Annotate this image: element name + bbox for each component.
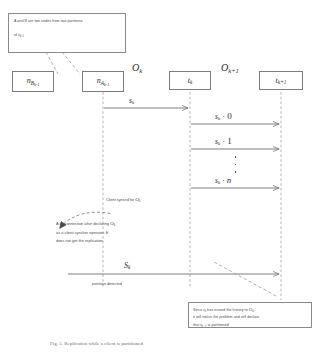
lifeline-tk1-label: tk+1	[276, 76, 287, 85]
note-disconnection-line1: A disconnection after declaring Ok	[56, 219, 164, 229]
note-erased-history: Since tk has erased the history to Ok, i…	[188, 302, 312, 328]
note-disconnection-line2: as a client syncher operator. E	[56, 229, 164, 237]
note-partitions: A and B are two nodes from two partition…	[8, 13, 126, 53]
lifeline-tk-label: tk	[188, 76, 193, 85]
lifeline-node-a[interactable]: nAk-1	[82, 71, 124, 92]
message-label-sk-to-tk: sk	[129, 96, 134, 105]
note-disconnection-line3: does not get the replication	[56, 237, 164, 245]
message-label-sk-n: sk· n	[215, 175, 231, 185]
lifeline-node-a-label: nAk-1	[97, 76, 110, 86]
note-erased-line2: it will notice the problem and will decl…	[193, 314, 307, 321]
figure-caption: Fig. 5. Replication while a client is pa…	[50, 341, 143, 346]
note-partitions-line2: of tk-1	[14, 30, 120, 40]
note-erased-line1: Since tk has erased the history to Ok,	[193, 306, 307, 314]
note-partitions-line1: A and B are two nodes from two partition…	[14, 18, 120, 25]
figure-canvas: A and B are two nodes from two partition…	[0, 0, 322, 353]
message-label-sk-0: sk· 0	[215, 111, 232, 121]
connector-bottom-note	[214, 262, 276, 296]
lifeline-node-b-label: nBk-1	[27, 76, 40, 86]
lifeline-tk1[interactable]: tk+1	[259, 71, 303, 90]
message-label-Sk: Sk	[124, 261, 130, 270]
vertical-ellipsis	[234, 156, 237, 173]
note-partitions-line2-prefix: of	[14, 33, 17, 37]
label-partition-detected: partition detected	[92, 281, 122, 286]
operator-ok: Ok	[132, 62, 142, 74]
note-connector-right	[62, 52, 80, 74]
lifeline-tk[interactable]: tk	[169, 71, 211, 90]
note-partitions-subscript: k-1	[20, 34, 24, 38]
label-client-synced: Client synced for Ok	[106, 197, 140, 203]
lifeline-node-b[interactable]: nBk-1	[12, 71, 54, 92]
note-erased-line3: that tk+1 is partitioned	[193, 321, 307, 329]
note-disconnection: A disconnection after declaring Ok as a …	[56, 219, 164, 245]
message-label-sk-1: sk· 1	[215, 136, 232, 146]
operator-ok1: Ok+1	[221, 62, 239, 74]
